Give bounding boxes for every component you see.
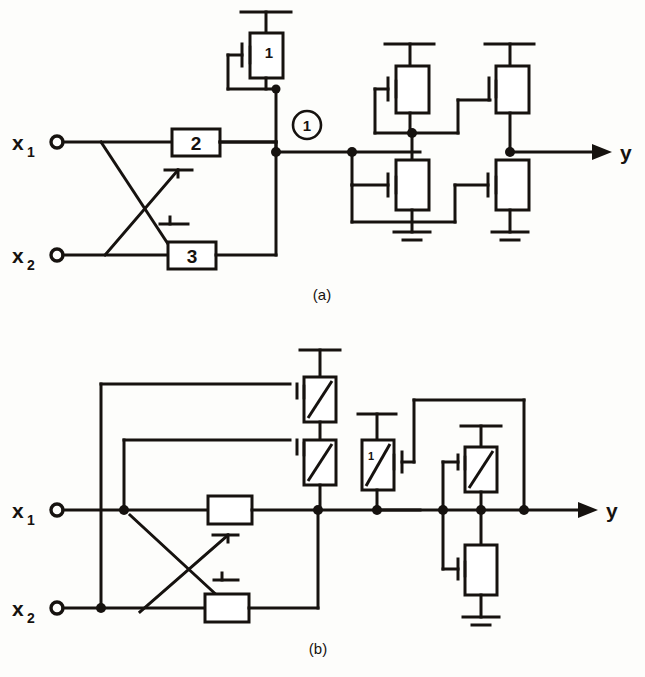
input-terminal-x2[interactable] (51, 602, 205, 614)
x2-subscript: 2 (27, 257, 35, 273)
depletion-labeled-1-label: 1 (368, 450, 374, 462)
y-label-a: y (620, 141, 632, 164)
inverter1-driver[interactable] (352, 133, 429, 232)
figure-sheet: 2 3 1 (0, 0, 645, 677)
x2-label: x (12, 597, 24, 620)
load-transistor-1[interactable]: 1 (228, 12, 291, 94)
depletion-second[interactable] (297, 440, 336, 510)
port-label-x2: x 2 (12, 597, 35, 626)
inverter2-driver[interactable] (352, 160, 529, 232)
pass-box-top[interactable] (208, 496, 318, 524)
load-transistor-1-label: 1 (265, 44, 273, 61)
depletion-labeled-1[interactable]: 1 (358, 400, 524, 510)
depletion-top[interactable] (297, 350, 340, 440)
x1-label: x (12, 131, 24, 154)
panel-b: 1 (12, 350, 618, 657)
inverter2 (352, 44, 534, 240)
x1-subscript: 1 (27, 144, 35, 160)
output-load[interactable] (443, 426, 501, 510)
x2-subscript: 2 (27, 610, 35, 626)
block-2-label: 2 (191, 133, 202, 154)
port-label-x2: x 2 (12, 244, 35, 273)
inverter2-load[interactable] (485, 44, 534, 152)
panel-a: 2 3 1 (12, 12, 632, 303)
pass-box-bottom[interactable] (205, 510, 318, 622)
output-driver[interactable] (443, 510, 497, 617)
block-3[interactable]: 3 (168, 242, 276, 269)
circuit-figure: 2 3 1 (0, 0, 645, 677)
junction-dot (313, 505, 323, 515)
ground-symbol (394, 232, 430, 240)
inverter1 (352, 44, 490, 240)
input-terminal-x1[interactable] (51, 136, 172, 148)
y-label-b: y (606, 499, 618, 522)
x1-subscript: 1 (27, 512, 35, 528)
ground-symbol (492, 232, 528, 240)
panel-b-caption: (b) (309, 640, 327, 657)
node-marker-1-label: 1 (303, 117, 311, 134)
node-marker-1: 1 (293, 111, 321, 139)
ground-symbol (463, 617, 499, 625)
port-label-x1: x 1 (12, 131, 35, 160)
port-label-x1: x 1 (12, 499, 35, 528)
panel-a-caption: (a) (313, 286, 331, 303)
junction-dot (272, 85, 281, 94)
output-inverter-b (377, 426, 529, 625)
junction-dot (271, 147, 281, 157)
inverter1-load[interactable] (375, 44, 434, 133)
block-3-label: 3 (187, 246, 198, 267)
output-terminal-y (524, 502, 598, 518)
x1-label: x (12, 499, 24, 522)
x2-label: x (12, 244, 24, 267)
pass-gate-cross-a (101, 142, 192, 255)
output-terminal-y (510, 144, 612, 160)
